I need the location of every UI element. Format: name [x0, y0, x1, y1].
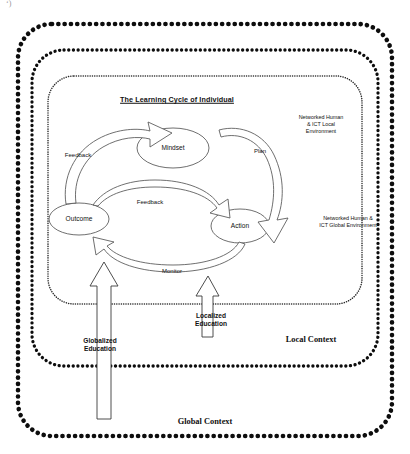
arrow-label-feedback-inner: Feedback — [137, 199, 163, 206]
input-label-localized-education: Localized Education — [171, 312, 251, 329]
environment-label-global: Networked Human & ICT Global Environment — [300, 215, 396, 229]
arrow-monitor — [93, 237, 245, 272]
node-label-outcome: Outcome — [66, 215, 93, 223]
node-label-mindset: Mindset — [161, 144, 184, 152]
page-title: The Learning Cycle of Individual — [120, 96, 234, 104]
container-label-local-context: Local Context — [286, 335, 336, 345]
diagram-canvas: The Learning Cycle of Individual Mindset… — [0, 0, 410, 454]
arrow-label-monitor: Monitor — [162, 268, 182, 275]
arrow-label-feedback-outer: Feedback — [65, 152, 91, 159]
environment-label-local: Networked Human & ICT Local Environment — [279, 114, 363, 135]
arrow-label-plan: Plan — [254, 148, 266, 155]
node-label-action: Action — [231, 222, 249, 230]
input-label-globalized-education: Globalized Education — [60, 337, 140, 354]
container-label-global-context: Global Context — [178, 417, 233, 427]
learning-cycle-border — [48, 76, 362, 304]
corner-artifact-text: ‘) — [6, 0, 11, 8]
